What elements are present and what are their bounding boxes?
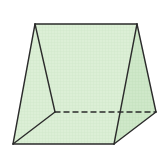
diagram-canvas (0, 0, 162, 152)
triangular-prism-figure (0, 0, 162, 152)
